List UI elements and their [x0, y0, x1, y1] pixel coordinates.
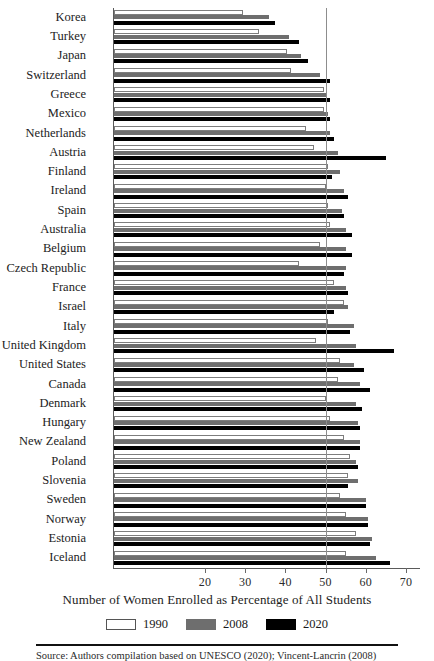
- bar-norway-2020: [114, 523, 368, 527]
- category-label: Denmark: [39, 397, 86, 410]
- category-label: Canada: [49, 378, 86, 391]
- bar-hungary-2008: [114, 421, 358, 425]
- category-label: Turkey: [50, 30, 86, 43]
- bar-israel-1990: [114, 300, 344, 305]
- x-axis-title: Number of Women Enrolled as Percentage o…: [0, 592, 434, 608]
- x-tick: [285, 568, 286, 573]
- bar-poland-2020: [114, 465, 358, 469]
- bar-spain-2020: [114, 214, 344, 218]
- category-label: Hungary: [42, 416, 86, 429]
- category-label: Ireland: [51, 184, 86, 197]
- x-tick-label: 60: [359, 575, 372, 590]
- bar-estonia-1990: [114, 531, 356, 536]
- bar-netherlands-2008: [114, 131, 330, 135]
- bar-switzerland-2020: [114, 79, 330, 83]
- bar-denmark-2020: [114, 407, 362, 411]
- bar-united-kingdom-2020: [114, 349, 394, 353]
- category-label: Greece: [51, 88, 86, 101]
- x-tick-label: 50: [319, 575, 332, 590]
- category-label: Sweden: [46, 493, 86, 506]
- bar-israel-2020: [114, 310, 334, 314]
- bar-united-states-2008: [114, 363, 354, 367]
- bar-austria-1990: [114, 145, 314, 150]
- category-label: Israel: [58, 300, 86, 313]
- bar-united-kingdom-1990: [114, 338, 316, 343]
- bar-sweden-2020: [114, 504, 366, 508]
- bar-canada-2008: [114, 382, 360, 386]
- x-tick: [326, 568, 327, 573]
- footnote-text: Source: Authors compilation based on UNE…: [36, 650, 416, 661]
- bar-sweden-2008: [114, 498, 366, 502]
- bar-finland-2020: [114, 175, 332, 179]
- legend-label-2020: 2020: [303, 617, 328, 632]
- bar-japan-1990: [114, 49, 287, 54]
- category-label: United States: [19, 358, 86, 371]
- category-label: Finland: [48, 165, 86, 178]
- bar-poland-1990: [114, 454, 350, 459]
- category-label: Spain: [58, 204, 86, 217]
- bar-australia-1990: [114, 222, 330, 227]
- bar-korea-2020: [114, 21, 275, 25]
- bar-new-zealand-2020: [114, 446, 360, 450]
- bar-switzerland-1990: [114, 68, 291, 73]
- bar-belgium-2008: [114, 247, 346, 251]
- chart-legend: 1990 2008 2020: [0, 617, 434, 632]
- category-label: Norway: [46, 513, 86, 526]
- bar-mexico-2008: [114, 112, 328, 116]
- bar-turkey-2008: [114, 35, 289, 39]
- bar-spain-1990: [114, 203, 328, 208]
- footnote-divider: [36, 644, 398, 646]
- legend-item-2008: 2008: [186, 617, 248, 632]
- category-label: Italy: [63, 320, 86, 333]
- bar-australia-2020: [114, 233, 352, 237]
- bar-italy-2008: [114, 324, 354, 328]
- legend-label-2008: 2008: [223, 617, 248, 632]
- bar-korea-1990: [114, 10, 243, 15]
- bar-united-kingdom-2008: [114, 344, 356, 348]
- x-tick: [205, 568, 206, 573]
- bar-belgium-1990: [114, 242, 320, 247]
- x-tick-label: 40: [279, 575, 292, 590]
- bar-hungary-2020: [114, 426, 360, 430]
- x-axis-line: [113, 568, 420, 569]
- legend-item-2020: 2020: [266, 617, 328, 632]
- bar-mexico-2020: [114, 117, 330, 121]
- category-label: Slovenia: [42, 474, 86, 487]
- x-tick-label: 70: [400, 575, 413, 590]
- category-label: Estonia: [49, 532, 87, 545]
- bar-new-zealand-2008: [114, 440, 360, 444]
- bar-ireland-2020: [114, 195, 348, 199]
- category-label: Poland: [51, 455, 86, 468]
- reference-line-50: [326, 8, 327, 568]
- bar-korea-2008: [114, 15, 269, 19]
- bar-iceland-2008: [114, 556, 376, 560]
- bar-norway-2008: [114, 517, 368, 521]
- x-tick-label: 30: [239, 575, 252, 590]
- bar-italy-1990: [114, 319, 328, 324]
- x-tick: [366, 568, 367, 573]
- category-label: Austria: [49, 146, 86, 159]
- bar-australia-2008: [114, 228, 346, 232]
- category-label: Japan: [58, 49, 86, 62]
- bar-belgium-2020: [114, 253, 352, 257]
- category-label: Iceland: [49, 551, 86, 564]
- bar-france-1990: [114, 280, 334, 285]
- legend-swatch-1990: [106, 619, 136, 630]
- bar-iceland-2020: [114, 561, 390, 565]
- bar-iceland-1990: [114, 551, 346, 556]
- x-tick: [245, 568, 246, 573]
- bar-mexico-1990: [114, 107, 324, 112]
- bar-greece-1990: [114, 87, 324, 92]
- legend-swatch-2020: [266, 619, 296, 630]
- legend-item-1990: 1990: [106, 617, 168, 632]
- bar-spain-2008: [114, 209, 342, 213]
- category-label: Belgium: [43, 242, 86, 255]
- bar-japan-2020: [114, 59, 308, 63]
- top-rule: [0, 0, 434, 2]
- bar-austria-2020: [114, 156, 386, 160]
- bar-canada-1990: [114, 377, 338, 382]
- bar-switzerland-2008: [114, 73, 320, 77]
- category-label: France: [52, 281, 86, 294]
- bar-italy-2020: [114, 330, 350, 334]
- bar-netherlands-1990: [114, 126, 306, 131]
